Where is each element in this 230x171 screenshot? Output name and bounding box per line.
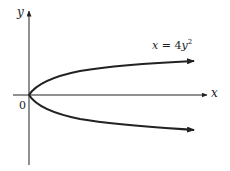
equation-equals: = xyxy=(162,39,171,52)
origin-label: 0 xyxy=(19,99,26,112)
y-axis-label: y xyxy=(17,5,24,19)
graph-canvas xyxy=(0,0,230,171)
parabola-lower-branch xyxy=(29,95,194,130)
equation-exponent: 2 xyxy=(188,38,192,46)
x-axis-label: x xyxy=(211,86,218,100)
equation-lhs: x xyxy=(152,39,158,52)
equation-label: x = 4y2 xyxy=(152,38,192,52)
parabola-upper-branch xyxy=(29,61,194,95)
